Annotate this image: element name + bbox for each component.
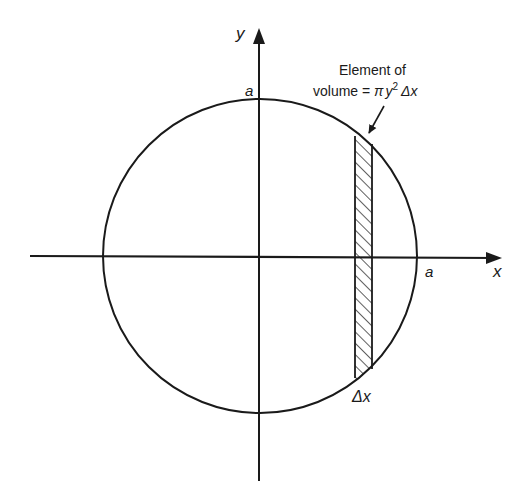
diagram-canvas: y x a a Element of volume = πy2Δx Δx xyxy=(0,0,523,498)
x-axis-label: x xyxy=(492,262,502,281)
y-axis-label: y xyxy=(235,24,246,43)
annotation-line-2: volume = πy2Δx xyxy=(313,81,418,99)
annotation-arrow-icon xyxy=(369,106,384,133)
x-intercept-label: a xyxy=(425,263,433,280)
x-axis xyxy=(30,256,498,258)
annotation-line-1: Element of xyxy=(339,62,406,78)
strip-width-label: Δx xyxy=(351,388,372,405)
volume-element-strip xyxy=(355,90,372,420)
volume-annotation: Element of volume = πy2Δx xyxy=(313,62,418,99)
y-axis-arrow-icon xyxy=(253,28,265,44)
y-intercept-label: a xyxy=(245,82,253,99)
